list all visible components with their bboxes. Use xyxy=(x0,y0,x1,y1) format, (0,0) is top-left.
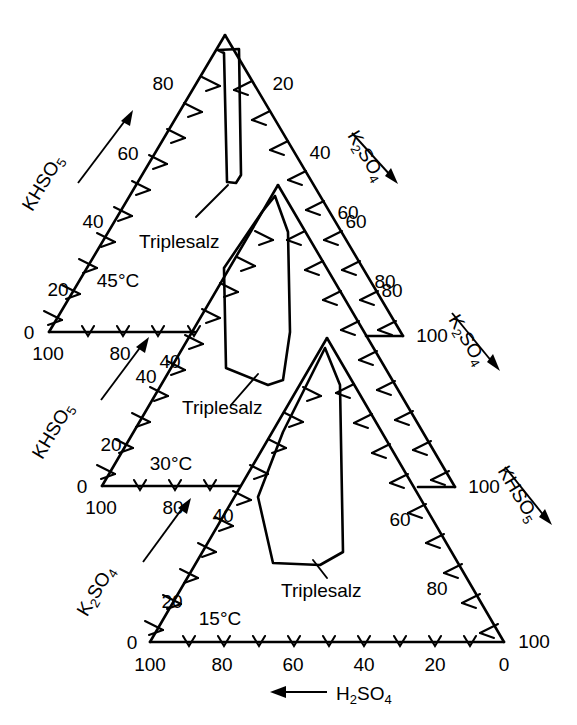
svg-text:K2SO4: K2SO4 xyxy=(72,562,121,621)
right-axis-name-45c: K2SO4 xyxy=(341,127,390,186)
triplesalz-label-45c: Triplesalz xyxy=(139,231,220,252)
left-tick-label-80-45c: 80 xyxy=(152,73,173,94)
left-axis-name-30c: KHSO5 xyxy=(28,399,80,464)
left-tick-label-0-15c: 0 xyxy=(127,632,138,653)
bottom-tick-label-0-15c: 0 xyxy=(499,654,510,675)
bottom-tick-label-40-30c: 40 xyxy=(212,505,233,526)
h2so4-direction-arrow xyxy=(270,686,327,698)
triplesalz-region-15c xyxy=(258,348,343,565)
triplesalz-label-30c: Triplesalz xyxy=(182,397,263,418)
svg-text:KHSO5: KHSO5 xyxy=(18,151,70,216)
left-tick-label-0-30c: 0 xyxy=(77,476,88,497)
left-tick-label-20-15c: 20 xyxy=(161,591,182,612)
temperature-label-15c: 15°C xyxy=(199,608,241,629)
right-axis-ticks-30c xyxy=(287,231,449,485)
left-tick-label-20-45c: 20 xyxy=(47,279,68,300)
right-tick-label-60-15c: 60 xyxy=(389,509,410,530)
triplesalz-region-45c xyxy=(218,49,241,183)
left-axis-name-45c: KHSO5 xyxy=(18,151,70,216)
temperature-label-45c: 45°C xyxy=(97,270,139,291)
triplesalz-label-15c: Triplesalz xyxy=(281,580,362,601)
right-tick-label-80-15c: 80 xyxy=(426,578,447,599)
right-corner-label-100-15c: 100 xyxy=(518,631,550,652)
right-tick-label-80-30c: 80 xyxy=(374,271,395,292)
right-axis-ticks-45c xyxy=(234,81,396,335)
svg-text:K2SO4: K2SO4 xyxy=(341,127,390,186)
bottom-axis-name: H2SO4 xyxy=(336,683,392,707)
left-tick-label-0-45c: 0 xyxy=(24,322,35,343)
right-corner-label-100-30c: 100 xyxy=(468,476,500,497)
temperature-label-30c: 30°C xyxy=(150,453,192,474)
right-tick-label-60-30c: 60 xyxy=(337,202,358,223)
bottom-tick-label-80-15c: 80 xyxy=(211,654,232,675)
bottom-tick-label-100-15c: 100 xyxy=(134,654,166,675)
bottom-tick-label-40-45c: 40 xyxy=(159,351,180,372)
svg-text:K2SO4: K2SO4 xyxy=(442,311,491,370)
bottom-tick-label-80-30c: 80 xyxy=(162,497,183,518)
left-tick-label-40-30c: 40 xyxy=(135,366,156,387)
right-corner-label-100-45c: 100 xyxy=(416,325,448,346)
left-tick-label-60-45c: 60 xyxy=(117,143,138,164)
left-tick-label-40-45c: 40 xyxy=(82,211,103,232)
triplesalz-leader-45c xyxy=(196,185,228,217)
bottom-tick-label-100-30c: 100 xyxy=(85,497,117,518)
right-tick-label-20-45c: 20 xyxy=(272,73,293,94)
right-tick-label-40-45c: 40 xyxy=(309,142,330,163)
bottom-tick-label-40-15c: 40 xyxy=(353,654,374,675)
left-tick-label-20-30c: 20 xyxy=(100,434,121,455)
left-axis-name-15c: K2SO4 xyxy=(72,562,121,621)
right-axis-name-30c: K2SO4 xyxy=(442,311,491,370)
bottom-tick-label-100-45c: 100 xyxy=(32,343,64,364)
svg-text:KHSO5: KHSO5 xyxy=(28,399,80,464)
bottom-tick-label-80-45c: 80 xyxy=(109,343,130,364)
bottom-tick-label-60-15c: 60 xyxy=(282,654,303,675)
figure-canvas: 80 60 40 20 0 20 40 60 80 100 100 80 40 … xyxy=(0,0,577,725)
ternary-diagram-svg: 80 60 40 20 0 20 40 60 80 100 100 80 40 … xyxy=(0,0,577,725)
bottom-tick-label-20-15c: 20 xyxy=(424,654,445,675)
